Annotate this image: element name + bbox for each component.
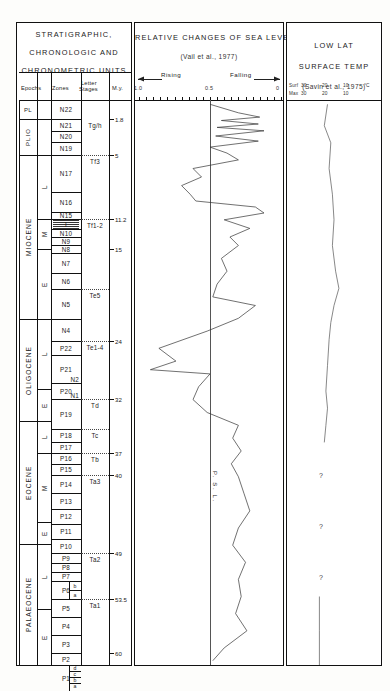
my-label-9: 53.5 bbox=[115, 596, 127, 603]
subepoch-4: E bbox=[37, 389, 51, 421]
p6-split-rule bbox=[69, 581, 70, 599]
epoch-plio: PLIO bbox=[19, 119, 37, 155]
zone-n22: N22 bbox=[51, 100, 81, 119]
subepoch-divider-2 bbox=[37, 249, 51, 250]
subzone-0: b bbox=[69, 581, 81, 590]
zone-divider-10 bbox=[51, 245, 81, 246]
stage-divider-10 bbox=[81, 599, 109, 600]
zone-n20: N20 bbox=[51, 131, 81, 142]
epoch-divider-1 bbox=[19, 119, 51, 120]
zone-divider-23 bbox=[51, 453, 81, 454]
zone-p9: P9 bbox=[51, 553, 81, 563]
my-label-4: 24 bbox=[115, 338, 122, 345]
zone-divider-22 bbox=[51, 442, 81, 443]
my-tick-4 bbox=[109, 341, 114, 342]
zone-hatch-0 bbox=[53, 220, 79, 221]
my-label-2: 11.2 bbox=[115, 216, 126, 223]
zone-p4: P4 bbox=[51, 617, 81, 635]
zone-hatch-4 bbox=[53, 228, 79, 229]
zone-p18: P18 bbox=[51, 429, 81, 442]
zone-p3: P3 bbox=[51, 635, 81, 653]
zone-n15: N15 bbox=[51, 212, 81, 219]
stage-divider-2 bbox=[81, 219, 109, 220]
subepoch-5: L bbox=[37, 421, 51, 453]
subzone-1: a bbox=[69, 590, 81, 599]
zone-p13: P13 bbox=[51, 493, 81, 509]
zone-p8: P8 bbox=[51, 563, 81, 572]
zone-n10: N10 bbox=[51, 229, 81, 237]
subzone-divider-0 bbox=[69, 581, 81, 582]
my-label-5: 32 bbox=[115, 396, 122, 403]
zone-divider-32 bbox=[51, 572, 81, 573]
zone-n8: N8 bbox=[51, 245, 81, 253]
zone-n21: N21 bbox=[51, 119, 81, 131]
my-label-6: 37 bbox=[115, 450, 122, 457]
zone-p2: P2 bbox=[51, 653, 81, 665]
zone-divider-29 bbox=[51, 539, 81, 540]
subzone-divider-2 bbox=[69, 665, 81, 666]
letter-stage-ta2: Ta2 bbox=[81, 553, 109, 599]
zone-divider-6 bbox=[51, 212, 81, 213]
subepoch-2: E bbox=[37, 249, 51, 319]
zone-p22: P22 bbox=[51, 341, 81, 355]
zone-divider-16 bbox=[51, 355, 81, 356]
zone-divider-2 bbox=[51, 131, 81, 132]
zone-n2: N2 bbox=[51, 376, 81, 383]
subepoch-7: E bbox=[37, 522, 51, 544]
zone-p19: P19 bbox=[51, 399, 81, 429]
letter-stage-tb: Tb bbox=[81, 453, 109, 475]
zone-divider-20 bbox=[51, 399, 81, 400]
letter-stage-td: Td bbox=[81, 399, 109, 429]
temp-uncertain-mark-0: ? bbox=[319, 472, 323, 479]
sea-level-curve bbox=[150, 104, 264, 660]
zone-hatch-2 bbox=[53, 224, 79, 225]
stage-divider-3 bbox=[81, 289, 109, 290]
letter-stage-tf3: Tf3 bbox=[81, 155, 109, 219]
zone-divider-12 bbox=[51, 273, 81, 274]
col-header-my: M.y. bbox=[112, 85, 123, 91]
zone-n16: N16 bbox=[51, 192, 81, 212]
subepoch-divider-4 bbox=[37, 389, 51, 390]
subepoch-divider-5 bbox=[37, 421, 51, 422]
epoch-miocene: MIOCENE bbox=[19, 155, 37, 319]
strat-title-line-1: STRATIGRAPHIC, bbox=[17, 30, 131, 39]
stage-divider-1 bbox=[81, 155, 109, 156]
zone-n19: N19 bbox=[51, 142, 81, 155]
subepoch-divider-0 bbox=[37, 155, 51, 156]
subepoch-divider-6 bbox=[37, 453, 51, 454]
zone-hatch-1 bbox=[53, 222, 79, 223]
subzone-divider-1 bbox=[69, 590, 81, 591]
my-tick-9 bbox=[109, 599, 114, 600]
zone-n7: N7 bbox=[51, 253, 81, 273]
zone-divider-5 bbox=[51, 192, 81, 193]
zone-divider-34 bbox=[51, 599, 81, 600]
stage-divider-5 bbox=[81, 399, 109, 400]
sea-level-panel: RELATIVE CHANGES OF SEA LEVEL (Vail et a… bbox=[134, 22, 284, 666]
my-label-7: 40 bbox=[115, 472, 122, 479]
my-tick-6 bbox=[109, 453, 114, 454]
subzone-divider-5 bbox=[69, 683, 81, 684]
zone-divider-26 bbox=[51, 493, 81, 494]
subepoch-6: M bbox=[37, 453, 51, 522]
subepoch-9: E bbox=[37, 609, 51, 665]
subepoch-divider-1 bbox=[37, 219, 51, 220]
my-tick-10 bbox=[109, 653, 114, 654]
zone-divider-4 bbox=[51, 155, 81, 156]
zone-divider-27 bbox=[51, 509, 81, 510]
letter-stage-tf12: Tf1-2 bbox=[81, 219, 109, 289]
my-tick-1 bbox=[109, 155, 114, 156]
subepoch-0: L bbox=[37, 155, 51, 219]
my-tick-0 bbox=[109, 119, 114, 120]
zone-n17: N17 bbox=[51, 155, 81, 192]
zone-divider-13 bbox=[51, 289, 81, 290]
zone-p16: P16 bbox=[51, 453, 81, 464]
zone-divider-11 bbox=[51, 253, 81, 254]
zone-divider-31 bbox=[51, 563, 81, 564]
letter-stage-tgh: Tg/h bbox=[81, 119, 109, 155]
my-label-8: 49 bbox=[115, 550, 122, 557]
zone-divider-0 bbox=[51, 100, 81, 101]
temp-curve-upper bbox=[324, 104, 339, 442]
subepoch-divider-8 bbox=[37, 544, 51, 545]
strat-title-line-2: CHRONOLOGIC AND bbox=[17, 48, 131, 57]
zone-divider-37 bbox=[51, 653, 81, 654]
